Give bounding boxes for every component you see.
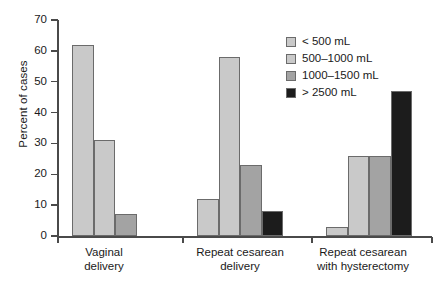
legend-swatch: [286, 54, 296, 64]
legend-item: 500–1000 mL: [286, 50, 379, 67]
bar: [197, 199, 219, 236]
legend-label: 500–1000 mL: [302, 53, 372, 65]
x-axis-tick: [182, 237, 184, 243]
legend-swatch: [286, 37, 296, 47]
legend-item: 1000–1500 mL: [286, 67, 379, 84]
y-axis-tick-label: 70: [17, 14, 47, 26]
y-axis-tick-label: 60: [17, 45, 47, 57]
legend-item: > 2500 mL: [286, 84, 379, 101]
legend: < 500 mL500–1000 mL1000–1500 mL> 2500 mL: [286, 33, 379, 101]
x-axis-tick: [431, 237, 433, 243]
y-axis-title: Percent of cases: [17, 39, 29, 169]
bar: [219, 57, 241, 236]
y-axis-tick: [51, 143, 58, 145]
legend-label: < 500 mL: [302, 36, 350, 48]
legend-swatch: [286, 71, 296, 81]
y-axis-tick-label: 50: [17, 76, 47, 88]
legend-label: > 2500 mL: [302, 87, 357, 99]
y-axis-tick-label: 20: [17, 169, 47, 181]
x-axis-line: [57, 236, 432, 238]
y-axis-tick-label: 10: [17, 199, 47, 211]
x-axis-tick: [57, 237, 59, 243]
y-axis-tick-label: 0: [17, 230, 47, 242]
y-axis-tick: [51, 112, 58, 114]
bar: [115, 214, 137, 236]
x-axis-group-label: Vaginal delivery: [34, 246, 174, 273]
y-axis-tick: [51, 19, 58, 21]
y-axis-tick: [51, 174, 58, 176]
bar: [326, 227, 348, 236]
x-axis-group-label: Repeat cesarean delivery: [170, 246, 310, 273]
y-axis-tick: [51, 50, 58, 52]
y-axis-tick-label: 40: [17, 107, 47, 119]
bar: [94, 140, 116, 236]
y-axis-tick: [51, 81, 58, 83]
bar: [262, 211, 284, 236]
y-axis-tick-label: 30: [17, 138, 47, 150]
bar: [240, 165, 262, 236]
bar: [72, 45, 94, 236]
legend-label: 1000–1500 mL: [302, 70, 379, 82]
x-axis-group-label: Repeat cesarean with hysterectomy: [293, 246, 433, 273]
legend-item: < 500 mL: [286, 33, 379, 50]
bar: [391, 91, 413, 236]
x-axis-tick: [311, 237, 313, 243]
legend-swatch: [286, 88, 296, 98]
bar: [348, 156, 370, 236]
y-axis-tick: [51, 204, 58, 206]
bar: [369, 156, 391, 236]
bar-chart: Percent of cases 010203040506070 Vaginal…: [0, 0, 445, 288]
